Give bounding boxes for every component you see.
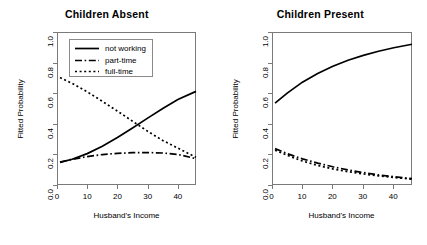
series-line-part-time bbox=[60, 153, 196, 162]
series-line-full-time bbox=[275, 150, 412, 179]
legend-item-not-working: not working bbox=[74, 43, 146, 54]
legend-key-solid bbox=[74, 43, 100, 54]
series-layer bbox=[214, 0, 427, 245]
chart-panel-children-present: Children Present 0.00.20.40.60.81.001020… bbox=[214, 0, 427, 245]
legend-label: full-time bbox=[105, 67, 133, 76]
legend-item-full-time: full-time bbox=[74, 66, 133, 77]
legend-item-part-time: part-time bbox=[74, 55, 137, 66]
series-line-part-time bbox=[275, 149, 412, 179]
legend-key-dotted bbox=[74, 66, 100, 77]
chart-panel-children-absent: Children Absent 0.00.20.40.60.81.0010203… bbox=[0, 0, 214, 245]
series-line-not-working bbox=[60, 91, 196, 162]
legend-label: not working bbox=[105, 44, 146, 53]
series-line-not-working bbox=[275, 44, 412, 103]
series-layer bbox=[0, 0, 214, 245]
series-line-full-time bbox=[60, 78, 196, 158]
legend-label: part-time bbox=[105, 56, 137, 65]
legend-key-dashdot bbox=[74, 55, 100, 66]
